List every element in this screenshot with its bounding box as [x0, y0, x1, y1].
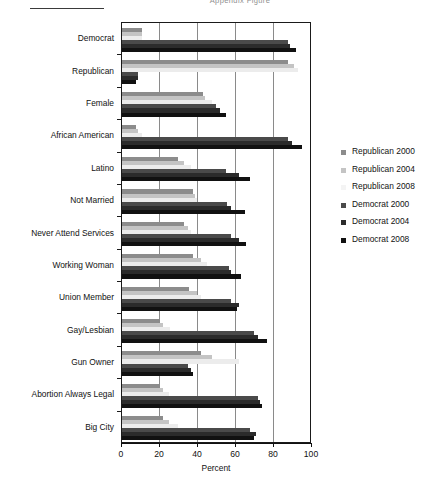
- y-axis-label: Gun Owner: [0, 357, 114, 367]
- x-tick: [159, 443, 160, 447]
- legend-item[interactable]: Democrat 2000: [341, 199, 441, 217]
- x-tick: [121, 443, 122, 447]
- y-axis-label: Working Woman: [0, 260, 114, 270]
- bar-group: [121, 189, 311, 213]
- bar-group: [121, 125, 311, 149]
- y-tick: [117, 346, 121, 347]
- x-tick: [197, 443, 198, 447]
- chart-page: Appendix Figure DemocratRepublicanFemale…: [0, 0, 444, 489]
- x-tick: [235, 443, 236, 447]
- legend-item[interactable]: Republican 2004: [341, 164, 441, 182]
- y-tick: [117, 216, 121, 217]
- bar-group: [121, 28, 311, 52]
- legend-label: Republican 2004: [352, 164, 415, 174]
- y-axis-label: Latino: [0, 163, 114, 173]
- legend-swatch-icon: [341, 203, 346, 208]
- bar: [121, 113, 226, 117]
- bar-group: [121, 222, 311, 246]
- legend-label: Democrat 2004: [352, 216, 409, 226]
- y-axis-label: Female: [0, 98, 114, 108]
- legend-swatch-icon: [341, 238, 346, 243]
- chart-title: Appendix Figure: [150, 0, 330, 7]
- y-axis-label: Abortion Always Legal: [0, 389, 114, 399]
- bar-group: [121, 92, 311, 116]
- y-tick: [117, 313, 121, 314]
- y-axis-label: Never Attend Services: [0, 228, 114, 238]
- x-tick: [273, 443, 274, 447]
- bar: [121, 210, 245, 214]
- legend-item[interactable]: Republican 2008: [341, 181, 441, 199]
- legend-swatch-icon: [341, 168, 346, 173]
- legend-swatch-icon: [341, 220, 346, 225]
- bar-group: [121, 60, 311, 84]
- x-axis-line: [121, 443, 311, 444]
- x-axis-title: Percent: [121, 463, 311, 473]
- y-tick: [117, 249, 121, 250]
- legend-item[interactable]: Democrat 2008: [341, 234, 441, 252]
- bar: [121, 274, 241, 278]
- legend-item[interactable]: Republican 2000: [341, 146, 441, 164]
- bar: [121, 145, 302, 149]
- bar-group: [121, 319, 311, 343]
- y-tick: [117, 152, 121, 153]
- legend-label: Republican 2000: [352, 146, 415, 156]
- y-tick: [117, 54, 121, 55]
- bar: [121, 436, 254, 440]
- y-tick: [117, 411, 121, 412]
- y-axis-label: Democrat: [0, 33, 114, 43]
- legend-label: Democrat 2008: [352, 234, 409, 244]
- bar-group: [121, 416, 311, 440]
- bar-group: [121, 254, 311, 278]
- legend-swatch-icon: [341, 150, 346, 155]
- bar: [121, 404, 262, 408]
- y-axis-label: Union Member: [0, 292, 114, 302]
- x-axis-tick-label: 60: [220, 449, 250, 459]
- y-tick: [117, 87, 121, 88]
- bar: [121, 177, 250, 181]
- bar: [121, 242, 246, 246]
- legend-label: Republican 2008: [352, 181, 415, 191]
- bar: [121, 48, 296, 52]
- legend-label: Democrat 2000: [352, 199, 409, 209]
- y-axis-label: Big City: [0, 422, 114, 432]
- bar: [121, 339, 267, 343]
- legend-swatch-icon: [341, 185, 346, 190]
- legend: Republican 2000Republican 2004Republican…: [341, 146, 441, 252]
- x-tick: [311, 443, 312, 447]
- x-axis-tick-label: 20: [144, 449, 174, 459]
- y-tick: [117, 184, 121, 185]
- x-axis-tick-label: 100: [296, 449, 326, 459]
- y-tick: [117, 281, 121, 282]
- bar: [121, 68, 298, 72]
- bar: [121, 80, 136, 84]
- y-axis-label: Not Married: [0, 195, 114, 205]
- bar-group: [121, 157, 311, 181]
- legend-item[interactable]: Democrat 2004: [341, 216, 441, 234]
- bar-group: [121, 351, 311, 375]
- header-rule: [30, 8, 104, 9]
- bar-group: [121, 384, 311, 408]
- y-tick: [117, 119, 121, 120]
- plot-area: [121, 22, 311, 443]
- y-axis-label: Republican: [0, 66, 114, 76]
- y-axis-label: African American: [0, 130, 114, 140]
- x-axis-tick-label: 40: [182, 449, 212, 459]
- bar: [121, 372, 193, 376]
- bar: [121, 307, 237, 311]
- bar-group: [121, 287, 311, 311]
- x-axis-tick-label: 80: [258, 449, 288, 459]
- y-tick: [117, 378, 121, 379]
- x-axis-tick-label: 0: [106, 449, 136, 459]
- y-axis-label: Gay/Lesbian: [0, 325, 114, 335]
